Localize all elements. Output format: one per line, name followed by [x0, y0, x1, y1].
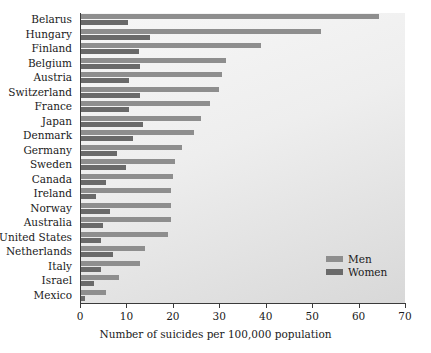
- bar-men: [80, 290, 106, 295]
- x-tick-mark: [266, 303, 267, 308]
- bar-women: [80, 151, 117, 156]
- x-tick-label: 0: [77, 310, 84, 322]
- bar-men: [80, 72, 222, 77]
- bar-women: [80, 78, 129, 83]
- y-axis-label: Canada: [32, 174, 72, 185]
- bar-row: [80, 57, 405, 72]
- bar-men: [80, 174, 173, 179]
- bar-row: [80, 86, 405, 101]
- legend-label-men: Men: [348, 253, 372, 265]
- y-axis-label: Italy: [48, 261, 72, 272]
- bar-row: [80, 173, 405, 188]
- bar-men: [80, 116, 201, 121]
- bar-women: [80, 252, 113, 257]
- y-axis-label: Australia: [24, 217, 72, 228]
- bar-women: [80, 180, 106, 185]
- legend-swatch-men-icon: [326, 256, 343, 262]
- suicide-rate-bar-chart: BelarusHungaryFinlandBelgiumAustriaSwitz…: [0, 0, 431, 353]
- bar-women: [80, 107, 129, 112]
- bar-men: [80, 203, 171, 208]
- bar-row: [80, 13, 405, 28]
- bar-women: [80, 64, 140, 69]
- y-axis-label: Denmark: [23, 130, 72, 141]
- x-tick-label: 50: [305, 310, 318, 322]
- bar-row: [80, 231, 405, 246]
- y-axis-label: Finland: [31, 43, 72, 54]
- bar-women: [80, 238, 101, 243]
- bar-men: [80, 43, 261, 48]
- x-axis-title: Number of suicides per 100,000 populatio…: [0, 328, 431, 340]
- bar-row: [80, 100, 405, 115]
- bar-women: [80, 49, 139, 54]
- bar-row: [80, 28, 405, 43]
- bar-row: [80, 115, 405, 130]
- legend-swatch-women-icon: [326, 269, 343, 275]
- bar-men: [80, 217, 171, 222]
- x-tick-mark: [405, 303, 406, 308]
- y-axis-label: Hungary: [25, 29, 72, 40]
- bar-women: [80, 122, 143, 127]
- bar-row: [80, 289, 405, 304]
- x-tick-label: 60: [352, 310, 365, 322]
- bar-women: [80, 165, 126, 170]
- bar-women: [80, 223, 103, 228]
- bar-men: [80, 14, 379, 19]
- x-tick-mark: [126, 303, 127, 308]
- y-axis-label: Japan: [42, 116, 72, 127]
- bar-women: [80, 194, 96, 199]
- y-axis-line: [80, 13, 81, 304]
- x-tick-mark: [312, 303, 313, 308]
- y-axis-label: Germany: [23, 145, 72, 156]
- bar-men: [80, 87, 219, 92]
- bar-men: [80, 58, 226, 63]
- bar-row: [80, 129, 405, 144]
- bar-men: [80, 261, 140, 266]
- x-tick-mark: [80, 303, 81, 308]
- bar-women: [80, 93, 140, 98]
- x-tick-label: 10: [120, 310, 133, 322]
- bar-row: [80, 42, 405, 57]
- bar-women: [80, 209, 110, 214]
- x-tick-mark: [173, 303, 174, 308]
- legend-item-men: Men: [326, 252, 387, 265]
- bar-row: [80, 202, 405, 217]
- bar-men: [80, 29, 321, 34]
- bar-men: [80, 246, 145, 251]
- x-tick-label: 70: [398, 310, 411, 322]
- bar-row: [80, 187, 405, 202]
- bar-men: [80, 188, 171, 193]
- x-tick-label: 30: [213, 310, 226, 322]
- x-tick-label: 40: [259, 310, 272, 322]
- bar-row: [80, 71, 405, 86]
- bar-row: [80, 144, 405, 159]
- x-tick-label: 20: [166, 310, 179, 322]
- y-axis-labels: BelarusHungaryFinlandBelgiumAustriaSwitz…: [0, 13, 76, 303]
- bar-women: [80, 267, 101, 272]
- y-axis-label: United States: [0, 232, 72, 243]
- bar-women: [80, 136, 133, 141]
- bar-men: [80, 232, 168, 237]
- x-tick-mark: [219, 303, 220, 308]
- x-axis-ticks: 010203040506070: [80, 303, 406, 329]
- y-axis-label: Israel: [42, 275, 72, 286]
- y-axis-label: Sweden: [30, 159, 72, 170]
- y-axis-label: Belgium: [28, 58, 72, 69]
- bar-men: [80, 159, 175, 164]
- y-axis-label: Belarus: [31, 14, 72, 25]
- bar-women: [80, 281, 94, 286]
- bar-men: [80, 145, 182, 150]
- bar-men: [80, 275, 119, 280]
- bar-row: [80, 158, 405, 173]
- y-axis-label: France: [35, 101, 72, 112]
- bar-women: [80, 35, 150, 40]
- legend-item-women: Women: [326, 265, 387, 278]
- bar-row: [80, 216, 405, 231]
- y-axis-label: Norway: [30, 203, 72, 214]
- y-axis-label: Austria: [33, 72, 72, 83]
- bar-women: [80, 20, 128, 25]
- y-axis-label: Mexico: [34, 290, 72, 301]
- legend-label-women: Women: [348, 266, 387, 278]
- bar-men: [80, 130, 194, 135]
- x-tick-mark: [359, 303, 360, 308]
- bar-men: [80, 101, 210, 106]
